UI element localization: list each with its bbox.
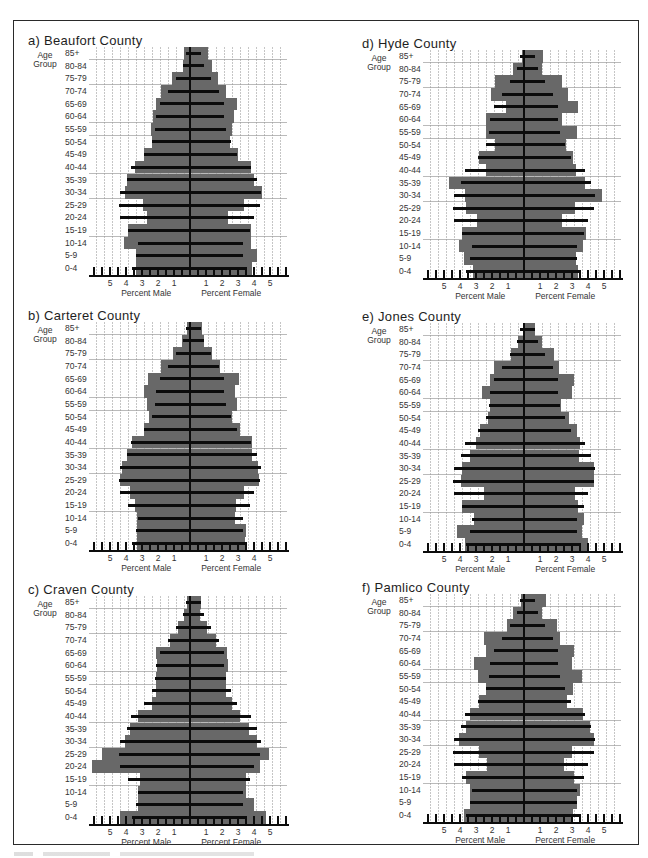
age-group-label: 75-79 [399,348,421,361]
male-axis-title: Percent Male [455,835,505,845]
female-tick-label: 2 [551,554,561,564]
reference-line [510,353,544,356]
age-group-label: 5-9 [399,525,411,538]
age-group-label: 60-64 [399,657,421,670]
panel-title: e) Jones County [362,309,461,324]
age-group-label: 0-4 [65,537,77,550]
reference-line [160,377,223,380]
axis-tick [173,816,175,824]
age-group-label: 35-39 [65,174,87,187]
female-tick-label: 2 [551,825,561,835]
age-group-label: 20-24 [65,211,87,224]
male-tick-label: 4 [121,827,131,837]
axis-tick [133,542,135,550]
axis-tick [125,542,127,550]
axis-tick [571,270,573,278]
male-axis-title: Percent Male [121,288,171,298]
reference-line [510,80,544,83]
female-axis-title: Percent Female [535,291,595,301]
axis-tick [579,543,581,551]
axis-tick [237,542,239,550]
age-group-label: 55-59 [399,670,421,683]
reference-line [494,378,557,381]
age-group-label: 10-14 [399,513,421,526]
axis-tick [515,543,517,551]
axis-tick [531,543,533,551]
age-group-label: 45-49 [65,148,87,161]
reference-line [127,727,257,730]
age-group-label: 50-54 [399,683,421,696]
age-group-label: 50-54 [65,136,87,149]
female-tick-label: 4 [249,553,259,563]
male-tick-label: 5 [439,825,449,835]
age-group-label: 55-59 [65,398,87,411]
age-group-label: 40-44 [65,436,87,449]
female-axis-title: Percent Female [201,563,261,573]
center-axis [523,50,525,278]
age-group-label: 40-44 [399,164,421,177]
age-group-label: 60-64 [65,110,87,123]
axis-tick [603,814,605,822]
axis-tick [467,814,469,822]
axis-tick [269,542,271,550]
axis-tick [595,270,597,278]
axis-tick [229,542,231,550]
age-group-label: 75-79 [399,75,421,88]
age-group-label: 30-34 [399,189,421,202]
age-group-label: 10-14 [399,784,421,797]
age-group-label: 70-74 [65,360,87,373]
male-tick-label: 1 [169,278,179,288]
age-group-label: 70-74 [399,361,421,374]
axis-tick [499,814,501,822]
axis-tick [109,816,111,824]
reference-line [502,366,552,369]
axis-tick [547,270,549,278]
x-axis [423,278,623,280]
axis-tick [515,270,517,278]
age-group-label: 15-19 [65,773,87,786]
reference-line [160,651,223,654]
axis-tick [173,542,175,550]
male-tick-label: 3 [471,554,481,564]
reference-line [465,442,585,445]
male-tick-label: 3 [137,827,147,837]
reference-line [183,613,205,616]
axis-tick [213,816,215,824]
axis-tick [451,543,453,551]
axis-tick [117,267,119,275]
age-group-label: 15-19 [65,224,87,237]
axis-tick [603,543,605,551]
female-tick-label: 4 [583,554,593,564]
age-group-label: 70-74 [65,85,87,98]
age-group-label: 65-69 [65,373,87,386]
age-group-label: 80-84 [65,609,87,622]
axis-tick [595,814,597,822]
axis-tick [435,270,437,278]
axis-tick [205,267,207,275]
reference-line [517,340,539,343]
axis-tick [157,542,159,550]
female-tick-label: 3 [567,281,577,291]
female-tick-label: 5 [599,825,609,835]
age-group-label: 30-34 [399,462,421,475]
age-group-label: 60-64 [65,659,87,672]
pyramid-panel-craven: c) Craven CountyAge Group85+80-8475-7970… [28,582,328,852]
reference-line [120,491,254,494]
reference-line [461,181,591,184]
reference-line [152,415,231,418]
axis-tick [269,816,271,824]
age-group-label: 65-69 [65,98,87,111]
age-group-label: 5-9 [399,252,411,265]
male-tick-label: 1 [169,827,179,837]
age-group-label: 80-84 [399,607,421,620]
age-group-header: Age Group [30,600,60,618]
age-group-label: 55-59 [399,126,421,139]
age-group-label: 75-79 [399,619,421,632]
age-group-label: 0-4 [65,811,77,824]
age-group-label: 10-14 [65,237,87,250]
reference-line [131,441,251,444]
age-group-label: 80-84 [65,335,87,348]
age-group-label: 30-34 [65,461,87,474]
age-group-label: 25-29 [65,748,87,761]
age-group-label: 15-19 [65,499,87,512]
